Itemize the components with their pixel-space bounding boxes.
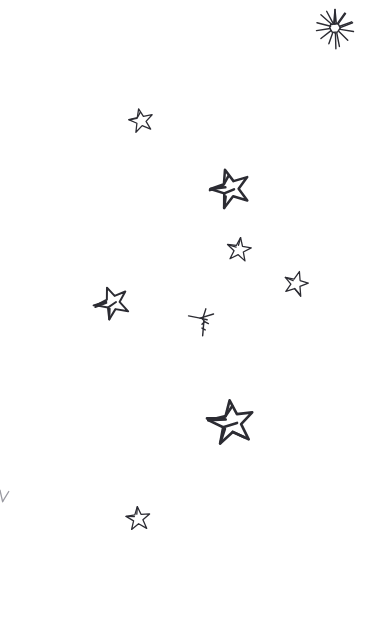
star-medium-upper-center-icon bbox=[204, 162, 257, 215]
star-small-upper-left-icon bbox=[126, 105, 157, 136]
star-small-right-icon bbox=[280, 267, 312, 299]
partial-star-sketch-icon bbox=[186, 305, 218, 337]
artwork-canvas bbox=[0, 0, 369, 627]
star-small-center-icon bbox=[224, 234, 253, 263]
star-medium-left-icon bbox=[88, 278, 136, 326]
star-large-lower-center-icon bbox=[203, 394, 259, 450]
burst-star-sparkle-icon bbox=[313, 6, 357, 50]
edge-fragment-mark bbox=[0, 488, 18, 510]
star-small-lower-left-icon bbox=[124, 504, 153, 533]
